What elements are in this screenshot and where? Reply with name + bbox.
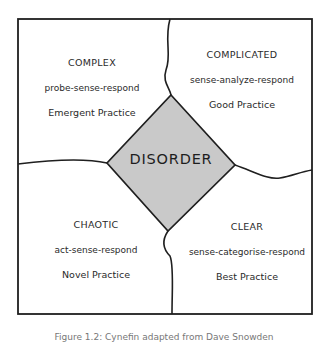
complex-title: COMPLEX	[22, 57, 162, 69]
clear-practice: Best Practice	[172, 271, 322, 283]
chaotic-approach: act-sense-respond	[26, 244, 166, 256]
chaotic-title: CHAOTIC	[26, 219, 166, 231]
domain-complicated: COMPLICATED sense-analyze-respond Good P…	[172, 49, 312, 111]
figure-caption: Figure 1.2: Cynefin adapted from Dave Sn…	[0, 332, 328, 342]
complicated-title: COMPLICATED	[172, 49, 312, 61]
disorder-label: DISORDER	[106, 151, 236, 167]
complex-approach: probe-sense-respond	[22, 82, 162, 94]
domain-chaotic: CHAOTIC act-sense-respond Novel Practice	[26, 219, 166, 281]
complicated-approach: sense-analyze-respond	[172, 74, 312, 86]
domain-clear: CLEAR sense-categorise-respond Best Prac…	[172, 221, 322, 283]
divider-right	[235, 165, 312, 178]
divider-left	[18, 160, 107, 164]
clear-title: CLEAR	[172, 221, 322, 233]
divider-top	[165, 19, 171, 95]
clear-approach: sense-categorise-respond	[172, 246, 322, 258]
complicated-practice: Good Practice	[172, 99, 312, 111]
complex-practice: Emergent Practice	[22, 107, 162, 119]
chaotic-practice: Novel Practice	[26, 269, 166, 281]
domain-complex: COMPLEX probe-sense-respond Emergent Pra…	[22, 57, 162, 119]
